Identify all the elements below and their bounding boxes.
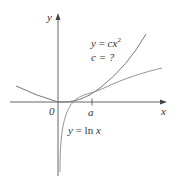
origin-label: 0	[49, 105, 55, 117]
y-axis-arrow-icon	[56, 13, 61, 20]
x-axis-label: x	[160, 105, 166, 117]
diagram-canvas: y x 0 a y = cx2 c = ? y = ln x	[0, 0, 178, 182]
y-axis-label: y	[46, 11, 52, 23]
c-question: c = ?	[91, 51, 115, 63]
parabola-equation: y = cx2	[90, 36, 121, 49]
tick-a-label: a	[88, 106, 94, 118]
ln-eq-eq: =	[73, 124, 85, 136]
eq-eq: =	[96, 37, 108, 49]
ln-curve	[60, 68, 162, 172]
ln-equation: y = ln x	[67, 124, 101, 136]
parabola-curve	[16, 34, 146, 102]
x-axis-arrow-icon	[160, 100, 167, 105]
eq-exp: 2	[117, 36, 121, 44]
ln-eq-x: x	[95, 124, 101, 136]
